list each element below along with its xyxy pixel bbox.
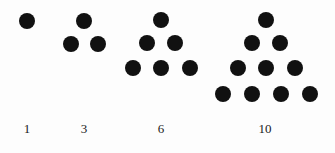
dot: [244, 35, 260, 51]
dot: [182, 60, 198, 76]
dot: [273, 86, 289, 102]
dot: [63, 36, 79, 52]
group-label-10: 10: [259, 122, 272, 135]
dot: [153, 60, 169, 76]
group-label-6: 6: [158, 122, 165, 135]
dot: [90, 36, 106, 52]
group-label-3: 3: [81, 122, 88, 135]
dot: [76, 13, 92, 29]
dot: [230, 60, 246, 76]
dot: [215, 86, 231, 102]
dot: [258, 12, 274, 28]
dot: [258, 60, 274, 76]
dot: [302, 86, 318, 102]
dot: [139, 35, 155, 51]
dot: [287, 60, 303, 76]
dots-layer: [0, 0, 335, 153]
dot: [153, 12, 169, 28]
dot: [19, 13, 35, 29]
dot: [125, 60, 141, 76]
triangular-numbers-figure: 13610: [0, 0, 335, 153]
dot: [272, 35, 288, 51]
dot: [167, 35, 183, 51]
group-label-1: 1: [24, 122, 31, 135]
dot: [244, 86, 260, 102]
